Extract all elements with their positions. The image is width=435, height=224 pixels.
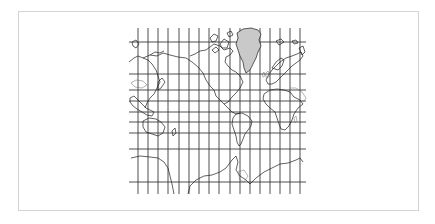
coastline-new-zealand <box>172 128 176 136</box>
coastline-europe <box>266 52 303 84</box>
coastline-caspian-lake <box>131 80 147 88</box>
coastline-central-america <box>224 104 240 114</box>
mercator-world-map <box>0 0 435 224</box>
coastline-south-america <box>232 113 252 146</box>
coastline-antarctica-east <box>250 158 303 184</box>
meridians <box>138 28 300 194</box>
coastline-southeast-asia <box>130 96 154 116</box>
coastline-east-asia <box>129 56 160 108</box>
graticule <box>129 28 306 194</box>
coastline-africa <box>263 89 303 130</box>
